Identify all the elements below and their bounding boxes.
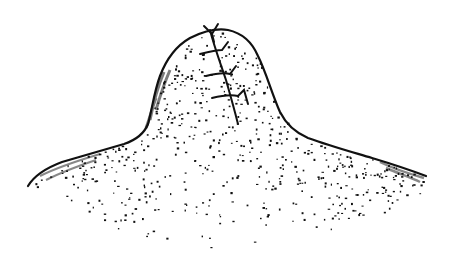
illustration-canvas: Stippled ink illustration of a sutured m… bbox=[0, 0, 453, 274]
stipple-shading bbox=[35, 33, 424, 249]
sutured-mound-drawing bbox=[0, 0, 453, 274]
stitch-1 bbox=[204, 24, 218, 42]
